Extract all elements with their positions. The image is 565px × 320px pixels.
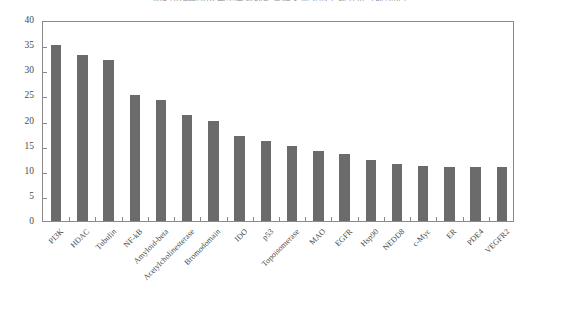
bar [497,167,508,221]
x-tick-label: PDE4 [465,227,485,247]
y-tick-mark [43,198,47,199]
bar [103,60,114,221]
y-tick-mark [43,97,47,98]
x-tick-mark [489,217,490,221]
x-tick-label: ER [445,227,459,241]
x-tick-label: MAO [308,227,328,247]
bar [392,164,403,221]
x-tick-label: PI3K [47,227,66,246]
x-tick-label: HDAC [69,227,92,250]
x-tick-label: Hsp90 [359,227,380,248]
x-tick-mark [436,217,437,221]
y-tick-mark [43,72,47,73]
x-tick-mark [358,217,359,221]
plot-area [42,21,514,222]
x-tick-mark [253,217,254,221]
y-tick-mark [43,123,47,124]
x-tick-label: EGFR [333,227,354,248]
y-tick-label: 25 [25,92,35,102]
bar [234,136,245,221]
x-tick-mark [174,217,175,221]
bar-chart-figure: 图4 2014—2018 年中国新药靶点相关研究的主题分布（前20位） 0510… [0,0,565,320]
x-tick-mark [463,217,464,221]
x-axis-labels: PI3KHDACTubulinNF-kBAmyloid-betaAcetylch… [0,222,565,320]
bar [51,45,62,221]
bar [418,166,429,221]
x-tick-mark [227,217,228,221]
bar [261,141,272,221]
y-tick-mark [43,148,47,149]
x-tick-mark [279,217,280,221]
x-tick-mark [122,217,123,221]
x-tick-mark [410,217,411,221]
chart-title: 图4 2014—2018 年中国新药靶点相关研究的主题分布（前20位） [0,0,565,1]
x-tick-label: c-Myc [411,227,432,248]
bars-layer [43,22,513,221]
x-tick-label: NF-kB [122,227,144,249]
x-tick-label: IDO [232,227,249,244]
bar [339,154,350,221]
y-tick-mark [43,173,47,174]
y-tick-label: 20 [25,117,35,127]
x-tick-mark [69,217,70,221]
x-tick-label: NEDD8 [381,227,406,252]
y-tick-label: 35 [25,41,35,51]
bar [77,55,88,221]
x-tick-mark [384,217,385,221]
x-tick-mark [95,217,96,221]
x-tick-label: VEGFR2 [483,227,511,255]
bar [470,167,481,221]
y-tick-label: 30 [25,67,35,77]
y-tick-label: 5 [29,192,34,202]
x-tick-mark [305,217,306,221]
bar [182,115,193,221]
x-tick-label: Tubulin [93,227,118,252]
x-tick-mark [331,217,332,221]
bar [208,121,219,222]
y-tick-label: 10 [25,167,35,177]
bar [287,146,298,221]
x-tick-mark [148,217,149,221]
bar [130,95,141,221]
y-tick-label: 40 [25,16,35,26]
bar [366,160,377,221]
bar [444,167,455,221]
y-tick-label: 15 [25,142,35,152]
x-tick-mark [200,217,201,221]
bar [313,151,324,221]
y-tick-mark [43,47,47,48]
x-tick-label: p53 [260,227,275,242]
bar [156,100,167,221]
